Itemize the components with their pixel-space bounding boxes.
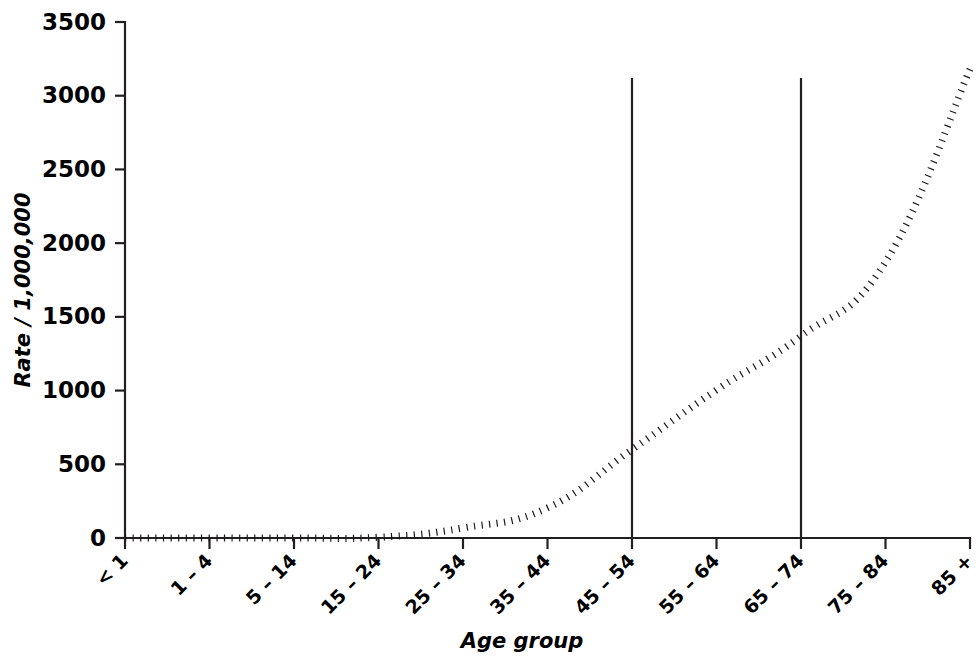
y-tick-label: 1000 [42,377,106,403]
y-tick-label: 0 [90,525,106,551]
y-tick-label: 2000 [42,230,106,256]
y-tick-label: 500 [58,451,106,477]
x-axis-title: Age group [459,629,584,653]
y-tick-label: 1500 [42,303,106,329]
y-tick-label: 3000 [42,82,106,108]
chart-background [0,0,980,670]
line-chart: 0500100015002000250030003500 < 11 – 45 –… [0,0,980,670]
y-axis-title: Rate / 1,000,000 [11,192,35,387]
y-tick-label: 2500 [42,156,106,182]
y-tick-label: 3500 [42,9,106,35]
chart-container: 0500100015002000250030003500 < 11 – 45 –… [0,0,980,670]
